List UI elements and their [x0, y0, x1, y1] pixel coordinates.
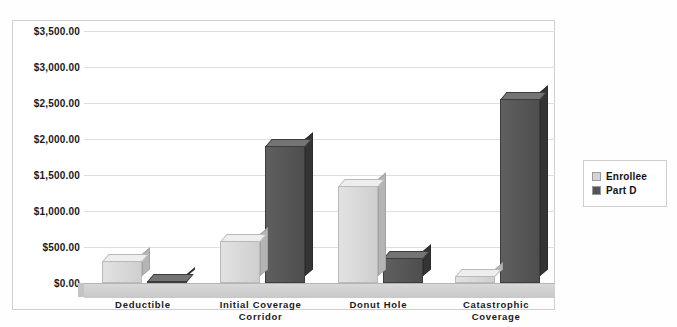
bar-top-face [383, 251, 430, 259]
y-axis-tick-label: $2,000.00 [4, 134, 80, 145]
bar-side-face [423, 244, 431, 276]
bar-front-face [265, 146, 305, 283]
bar-group [84, 31, 202, 283]
bar-group [202, 31, 320, 283]
bar-top-face [220, 234, 267, 242]
chart-legend: Enrollee Part D [583, 160, 667, 207]
bar-front-face [220, 241, 260, 283]
bar-top-face [455, 269, 502, 277]
bar-group [437, 31, 555, 283]
y-axis: $0.00$500.00$1,000.00$1,500.00$2,000.00$… [0, 31, 80, 283]
x-axis-tick-label: Catastrophic Coverage [437, 299, 555, 323]
bar-group [320, 31, 438, 283]
legend-item-part-d[interactable]: Part D [592, 185, 660, 196]
y-axis-tick-label: $3,500.00 [4, 26, 80, 37]
legend-swatch-part-d [592, 186, 601, 195]
x-axis-tick-label: Deductible [84, 299, 202, 311]
y-axis-tick-label: $0.00 [4, 278, 80, 289]
bar-enrollee[interactable] [455, 276, 495, 283]
legend-label-enrollee: Enrollee [606, 171, 647, 182]
chart-floor [84, 283, 555, 298]
plot-area [84, 31, 555, 283]
bar-top-face [265, 139, 312, 147]
bar-part-d[interactable] [147, 281, 187, 283]
y-axis-tick-label: $1,500.00 [4, 170, 80, 181]
bar-front-face [383, 258, 423, 283]
bar-side-face [378, 172, 386, 276]
bar-part-d[interactable] [500, 99, 540, 283]
y-axis-tick-label: $3,000.00 [4, 62, 80, 73]
bar-enrollee[interactable] [102, 261, 142, 283]
bar-enrollee[interactable] [338, 186, 378, 283]
bar-front-face [455, 276, 495, 283]
y-axis-tick-label: $500.00 [4, 242, 80, 253]
bar-side-face [540, 85, 548, 276]
legend-swatch-enrollee [592, 172, 601, 181]
bar-top-face [147, 274, 194, 282]
x-axis: DeductibleInitial Coverage CorridorDonut… [84, 299, 555, 327]
bar-front-face [102, 261, 142, 283]
bar-top-face [102, 254, 149, 262]
bar-top-face [338, 179, 385, 187]
y-axis-tick-label: $1,000.00 [4, 206, 80, 217]
bar-side-face [142, 247, 150, 276]
bar-part-d[interactable] [265, 146, 305, 283]
bar-chart: $0.00$500.00$1,000.00$1,500.00$2,000.00$… [0, 0, 677, 327]
bar-enrollee[interactable] [220, 241, 260, 283]
bar-front-face [500, 99, 540, 283]
x-axis-tick-label: Donut Hole [320, 299, 438, 311]
legend-item-enrollee[interactable]: Enrollee [592, 171, 660, 182]
y-axis-tick-label: $2,500.00 [4, 98, 80, 109]
bar-top-face [500, 92, 547, 100]
bar-front-face [338, 186, 378, 283]
x-axis-tick-label: Initial Coverage Corridor [202, 299, 320, 323]
legend-label-part-d: Part D [606, 185, 637, 196]
bar-part-d[interactable] [383, 258, 423, 283]
bar-side-face [305, 132, 313, 276]
